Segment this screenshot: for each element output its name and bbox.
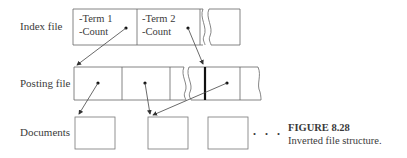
figure-caption-subtitle: Inverted file structure. (288, 135, 382, 146)
posting-file-record (74, 67, 261, 100)
documents-row (75, 117, 248, 149)
figure-caption-title: FIGURE 8.28 (288, 122, 350, 133)
index-cell-1-count: -Count (79, 26, 108, 38)
index-cell-2-count: -Count (142, 26, 171, 38)
index-file-label: Index file (20, 20, 62, 32)
pointer-posting3-to-doc2 (153, 83, 227, 115)
documents-label: Documents (20, 126, 70, 138)
posting-file-label: Posting file (20, 77, 70, 89)
more-documents-ellipsis: . . . (253, 124, 283, 139)
document-box-1 (75, 117, 115, 149)
document-box-3 (208, 117, 248, 149)
pointer-posting1-to-doc1 (79, 83, 98, 114)
index-cell-1-term: -Term 1 (79, 13, 112, 25)
document-box-2 (148, 117, 188, 149)
pointer-posting2-to-doc2 (145, 83, 150, 114)
pointer-term2-to-posting (188, 28, 203, 64)
index-cell-2-term: -Term 2 (142, 13, 175, 25)
